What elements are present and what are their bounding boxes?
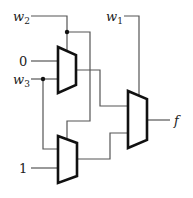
mux-final bbox=[128, 91, 147, 148]
w2-wire bbox=[31, 16, 67, 50]
label-f: f bbox=[173, 113, 181, 128]
w3-branch-wire bbox=[43, 79, 58, 149]
bottom-mux-output-wire bbox=[77, 133, 128, 159]
wires bbox=[31, 16, 170, 168]
junction-dot bbox=[41, 77, 45, 81]
w1-wire bbox=[124, 16, 139, 95]
label-zero: 0 bbox=[19, 54, 27, 69]
label-w3: w3 bbox=[13, 72, 30, 89]
mux-top bbox=[58, 47, 76, 93]
label-one: 1 bbox=[19, 161, 27, 176]
junction-dot bbox=[65, 30, 69, 34]
mux-circuit-diagram: w2 0 w3 1 w1 f bbox=[0, 0, 193, 198]
top-mux-output-wire bbox=[76, 70, 128, 106]
mux-bottom bbox=[58, 136, 77, 183]
label-w2: w2 bbox=[13, 9, 30, 26]
label-w1: w1 bbox=[106, 9, 123, 26]
